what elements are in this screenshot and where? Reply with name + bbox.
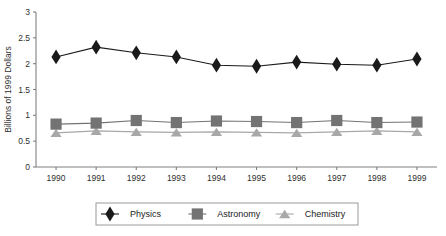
astronomy-square-marker xyxy=(411,116,422,127)
astronomy-square-marker xyxy=(211,115,222,126)
series-chemistry xyxy=(50,127,422,137)
x-tick-label: 1998 xyxy=(367,173,386,183)
x-tick-label: 1990 xyxy=(47,173,66,183)
physics-diamond-marker xyxy=(212,58,221,73)
y-tick-label: 1.5 xyxy=(18,85,30,95)
x-tick-label: 1997 xyxy=(327,173,346,183)
physics-diamond-marker xyxy=(252,59,261,74)
x-tick-label: 1991 xyxy=(87,173,106,183)
y-tick-label: 3 xyxy=(25,7,30,17)
legend-astronomy-square-marker xyxy=(192,208,203,219)
legend-label-physics: Physics xyxy=(130,209,162,219)
astronomy-square-marker xyxy=(171,117,182,128)
astronomy-square-marker xyxy=(91,117,102,128)
y-tick-label: 1 xyxy=(25,110,30,120)
y-tick-label: 2.5 xyxy=(18,33,30,43)
series-astronomy xyxy=(50,115,422,130)
y-tick-label: 0 xyxy=(25,162,30,172)
astronomy-square-marker xyxy=(291,117,302,128)
physics-diamond-marker xyxy=(132,45,141,60)
physics-diamond-marker xyxy=(172,50,181,65)
astronomy-square-marker xyxy=(131,115,142,126)
legend-label-astronomy: Astronomy xyxy=(217,209,261,219)
physics-diamond-marker xyxy=(92,40,101,55)
legend-label-chemistry: Chemistry xyxy=(305,209,346,219)
physics-diamond-marker xyxy=(412,52,421,67)
physics-diamond-marker xyxy=(292,55,301,70)
series-line-chemistry xyxy=(56,131,417,133)
line-chart: 00.511.522.53199019911992199319941995199… xyxy=(0,0,446,236)
series-line-physics xyxy=(56,47,417,66)
physics-diamond-marker xyxy=(332,57,341,72)
astronomy-square-marker xyxy=(331,115,342,126)
x-tick-label: 1996 xyxy=(287,173,306,183)
x-tick-label: 1994 xyxy=(207,173,226,183)
legend: PhysicsAstronomyChemistry xyxy=(96,203,358,225)
physics-diamond-marker xyxy=(51,50,60,65)
series-line-astronomy xyxy=(56,121,417,125)
chart-container: 00.511.522.53199019911992199319941995199… xyxy=(0,0,446,236)
x-tick-label: 1999 xyxy=(407,173,426,183)
x-tick-label: 1995 xyxy=(247,173,266,183)
physics-diamond-marker xyxy=(372,58,381,73)
y-tick-label: 2 xyxy=(25,59,30,69)
legend-item-astronomy[interactable]: Astronomy xyxy=(188,208,261,219)
y-tick-label: 0.5 xyxy=(18,136,30,146)
astronomy-square-marker xyxy=(251,116,262,127)
series-physics xyxy=(51,40,421,74)
x-tick-label: 1992 xyxy=(127,173,146,183)
x-tick-label: 1993 xyxy=(167,173,186,183)
astronomy-square-marker xyxy=(50,119,61,130)
astronomy-square-marker xyxy=(371,117,382,128)
y-axis-title: Billions of 1999 Dollars xyxy=(3,46,13,132)
